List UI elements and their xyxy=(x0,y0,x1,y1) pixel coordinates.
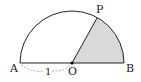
label-b: B xyxy=(126,62,134,75)
semicircle-diagram: A B O P 1 xyxy=(0,0,141,82)
shaded-sector-pob xyxy=(72,18,124,63)
label-p: P xyxy=(96,3,104,16)
label-radius-length: 1 xyxy=(45,66,51,77)
length-brace-dashed xyxy=(21,65,44,71)
label-o: O xyxy=(68,65,77,78)
label-a: A xyxy=(9,62,19,75)
